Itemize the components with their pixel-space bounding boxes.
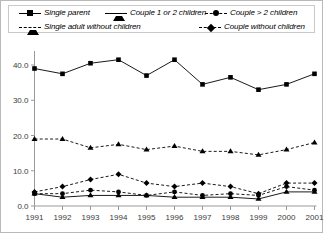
data-point-circle-marker [88, 188, 93, 193]
x-tick-label: 1992 [54, 213, 72, 222]
data-point-triangle-marker [116, 192, 122, 197]
data-point-diamond-marker [60, 184, 66, 190]
data-point-triangle-marker [116, 141, 122, 146]
legend-row-2: Single adult without children Couple wit… [9, 20, 314, 34]
x-tick-label: 1998 [222, 213, 240, 222]
x-tick-label: 1994 [110, 213, 128, 222]
y-tick-label: 30.0 [13, 96, 29, 105]
data-point-square-marker [312, 72, 317, 77]
legend-label: Single parent [44, 9, 90, 17]
line-chart: 0.010.020.030.040.0 19911992199319941995… [1, 33, 324, 234]
legend-key-square-solid-icon [19, 8, 41, 18]
data-point-square-marker [88, 61, 93, 66]
data-point-triangle-marker [284, 189, 290, 194]
x-tick-label: 2000 [278, 213, 296, 222]
data-point-square-marker [172, 57, 177, 62]
y-tick-label: 40.0 [13, 61, 29, 70]
legend-label: Couple 1 or 2 children [130, 9, 206, 17]
data-point-circle-marker [172, 190, 177, 195]
data-series-layer [32, 57, 318, 200]
data-point-square-marker [284, 82, 289, 87]
legend-row-1: Single parent Couple 1 or 2 children Cou… [9, 6, 314, 20]
data-point-square-marker [32, 66, 37, 71]
legend-label: Couple > 2 children [230, 9, 297, 17]
series-single-parent [32, 57, 317, 92]
legend-key-triangle-solid-icon [105, 8, 127, 18]
legend-entry-single-parent: Single parent [19, 8, 90, 18]
plot-area: 0.010.020.030.040.0 19911992199319941995… [1, 33, 324, 234]
data-point-square-marker [228, 75, 233, 80]
data-point-diamond-marker [200, 180, 206, 186]
data-point-diamond-marker [88, 177, 94, 183]
x-tick-label: 1997 [194, 213, 212, 222]
series-line [35, 60, 315, 90]
legend-key-triangle-dashed-icon [19, 22, 41, 32]
x-tick-label: 1996 [166, 213, 184, 222]
data-point-triangle-marker [172, 194, 178, 199]
data-point-triangle-marker [88, 192, 94, 197]
data-point-circle-marker [284, 184, 289, 189]
data-point-triangle-marker [228, 148, 234, 153]
data-point-square-marker [60, 72, 65, 77]
legend-entry-single-adult-without-children: Single adult without children [19, 22, 141, 32]
series-single-adult-without-children [32, 136, 318, 157]
data-point-diamond-marker [228, 184, 234, 190]
x-tick-label: 1991 [26, 213, 44, 222]
legend-entry-couple-1-or-2-children: Couple 1 or 2 children [105, 8, 206, 18]
y-axis-tick-labels: 0.010.020.030.040.0 [13, 61, 29, 211]
data-point-diamond-marker [144, 180, 150, 186]
chart-legend: Single parent Couple 1 or 2 children Cou… [8, 5, 315, 33]
y-tick-label: 10.0 [13, 167, 29, 176]
data-point-diamond-marker [172, 184, 178, 190]
y-tick-label: 20.0 [13, 132, 29, 141]
x-tick-label: 2001 [306, 213, 324, 222]
data-point-triangle-marker [312, 139, 318, 144]
x-axis-tick-marks [35, 206, 315, 210]
data-point-square-marker [256, 87, 261, 92]
y-axis-tick-marks [31, 65, 35, 206]
legend-label: Single adult without children [44, 23, 141, 31]
legend-entry-couple-more-than-2-children: Couple > 2 children [205, 8, 297, 18]
data-point-triangle-marker [228, 194, 234, 199]
legend-label: Couple without children [224, 23, 305, 31]
x-axis-tick-labels: 1991199219931994199519961997199819992000… [26, 213, 324, 222]
y-tick-label: 0.0 [17, 202, 29, 211]
legend-key-circle-dashed-icon [205, 8, 227, 18]
x-tick-label: 1999 [250, 213, 268, 222]
data-point-square-marker [200, 82, 205, 87]
legend-entry-couple-without-children: Couple without children [199, 22, 305, 32]
data-point-square-marker [116, 57, 121, 62]
data-point-square-marker [144, 73, 149, 78]
data-point-triangle-marker [172, 143, 178, 148]
x-tick-label: 1993 [82, 213, 100, 222]
x-tick-label: 1995 [138, 213, 156, 222]
data-point-diamond-marker [116, 171, 122, 177]
data-point-triangle-marker [60, 136, 66, 141]
data-point-triangle-marker [32, 136, 38, 141]
legend-key-diamond-dashed-icon [199, 22, 221, 32]
data-point-diamond-marker [312, 180, 318, 186]
